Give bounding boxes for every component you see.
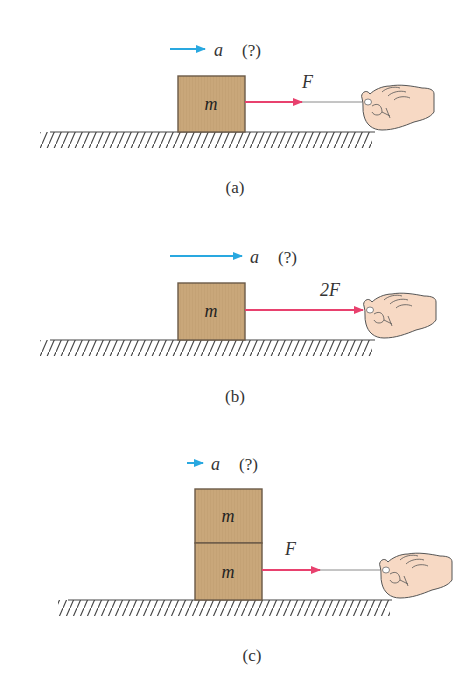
block-top-mass-label: m <box>222 506 235 526</box>
panel-a: a (?) m F (a) <box>40 40 434 197</box>
acceleration-unknown: (?) <box>278 248 297 267</box>
acceleration-unknown: (?) <box>239 455 258 474</box>
force-label: 2F <box>320 280 341 300</box>
force-label: F <box>284 539 297 559</box>
block-bottom-mass-label: m <box>222 562 235 582</box>
panel-caption: (c) <box>243 646 262 665</box>
acceleration-unknown: (?) <box>242 41 261 60</box>
panel-caption: (a) <box>226 178 245 197</box>
hand-icon <box>380 553 452 598</box>
acceleration-label: a <box>211 454 220 474</box>
panel-b: a (?) m 2F (b) <box>40 247 436 406</box>
force-label: F <box>301 72 314 92</box>
ground-hatch <box>40 132 372 148</box>
ground-hatch <box>40 340 372 356</box>
panel-caption: (b) <box>225 387 245 406</box>
ground-hatch <box>58 600 390 616</box>
panel-c: a (?) m m F (c) <box>58 454 452 665</box>
hand-icon <box>364 293 436 338</box>
block-mass-label: m <box>205 301 218 321</box>
acceleration-label: a <box>214 40 223 60</box>
hand-icon <box>362 85 434 130</box>
acceleration-label: a <box>250 247 259 267</box>
newton-second-law-diagram: a (?) m F (a) a (?) m 2F (b) a (?) m <box>0 0 466 678</box>
block-mass-label: m <box>205 94 218 114</box>
